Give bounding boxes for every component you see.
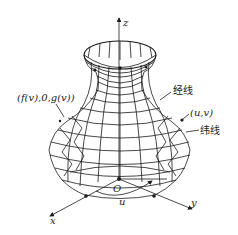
surface-of-revolution-diagram: z x y O u (f(v),0,g(v)) 经线 (u,v) 纬线 [0, 0, 238, 235]
surface-mesh [49, 41, 190, 199]
x-axis [50, 179, 119, 216]
surface-point-label: (u,v) [190, 107, 213, 118]
y-axis-label: y [190, 197, 197, 208]
y-axis [119, 179, 192, 209]
rim-point-left [94, 69, 97, 72]
angle-label: u [119, 196, 125, 207]
x-axis-point [84, 194, 88, 198]
origin-point [117, 177, 121, 181]
meridian-label: 经线 [173, 84, 193, 96]
x-axis-label: x [50, 215, 56, 226]
profile-point-label: (f(v),0,g(v)) [17, 92, 75, 103]
origin-label: O [113, 183, 121, 194]
z-axis-label: z [122, 17, 129, 28]
y-axis-point [152, 194, 156, 198]
rim-point-right [145, 66, 148, 69]
profile-point [59, 120, 61, 122]
parallel-label: 纬线 [200, 124, 220, 136]
points [59, 66, 184, 198]
leader-lines [56, 92, 199, 132]
top-center-point [118, 66, 122, 70]
